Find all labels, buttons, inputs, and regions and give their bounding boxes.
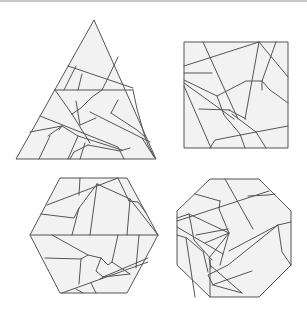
octagon-dissection (177, 179, 291, 297)
dissection-figure (0, 0, 307, 312)
square-dissection (184, 42, 288, 148)
triangle-dissection (16, 20, 156, 159)
hexagon-dissection (30, 178, 158, 293)
